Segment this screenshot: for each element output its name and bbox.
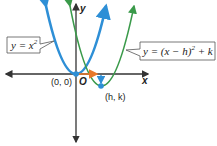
svg-text:y = x2: y = x2 <box>10 38 38 51</box>
parent-equation: y = x <box>10 39 34 51</box>
y-axis-label: y <box>79 3 86 14</box>
translated-equation: y = (x − h) <box>142 45 192 58</box>
vertex-coord-label: (h, k) <box>105 92 126 102</box>
x-axis-label: x <box>141 75 148 86</box>
origin-point <box>73 71 79 77</box>
parabola-translation-diagram: y x O (0, 0) (h, k) y = x2 y = (x − h)2 … <box>0 0 217 146</box>
translated-equation-callout: y = (x − h)2 + k <box>126 42 215 60</box>
origin-coord-label: (0, 0) <box>51 77 72 87</box>
parent-equation-callout: y = x2 <box>7 37 54 53</box>
vertex-point <box>98 83 104 89</box>
origin-label: O <box>79 76 87 87</box>
svg-text:y = (x − h)2 + k: y = (x − h)2 + k <box>142 44 214 58</box>
